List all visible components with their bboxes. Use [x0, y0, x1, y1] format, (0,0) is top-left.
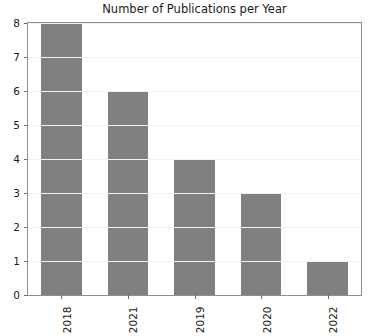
x-tick-mark [128, 295, 129, 299]
gridline [28, 193, 361, 194]
x-tick-label: 2019 [195, 307, 206, 336]
y-tick-mark [24, 23, 28, 24]
y-tick-mark [24, 193, 28, 194]
y-tick-mark [24, 57, 28, 58]
bar [241, 193, 282, 295]
y-tick-label: 5 [13, 120, 20, 131]
x-tick-mark [328, 295, 329, 299]
gridline [28, 91, 361, 92]
y-tick-mark [24, 261, 28, 262]
x-tick-label: 2022 [328, 307, 339, 336]
chart-title: Number of Publications per Year [27, 2, 362, 16]
y-tick-label: 7 [13, 52, 20, 63]
gridline [28, 261, 361, 262]
bar [307, 261, 348, 295]
gridline [28, 125, 361, 126]
gridline [28, 23, 361, 24]
gridline [28, 227, 361, 228]
y-tick-label: 0 [13, 290, 20, 301]
x-tick-mark [195, 295, 196, 299]
y-tick-mark [24, 295, 28, 296]
y-tick-mark [24, 91, 28, 92]
y-tick-label: 8 [13, 18, 20, 29]
x-tick-label: 2020 [261, 307, 272, 336]
y-tick-label: 3 [13, 188, 20, 199]
x-tick-label: 2018 [61, 307, 72, 336]
y-tick-label: 6 [13, 86, 20, 97]
x-tick-label: 2021 [128, 307, 139, 336]
y-tick-label: 4 [13, 154, 20, 165]
y-tick-mark [24, 125, 28, 126]
plot-area [27, 22, 362, 296]
y-tick-mark [24, 227, 28, 228]
y-tick-mark [24, 159, 28, 160]
y-tick-label: 2 [13, 222, 20, 233]
y-tick-label: 1 [13, 256, 20, 267]
gridline [28, 159, 361, 160]
plot-inner [28, 23, 361, 295]
gridline [28, 57, 361, 58]
bar-chart-figure: Number of Publications per Year 01234567… [0, 0, 370, 336]
x-tick-mark [261, 295, 262, 299]
x-tick-mark [61, 295, 62, 299]
